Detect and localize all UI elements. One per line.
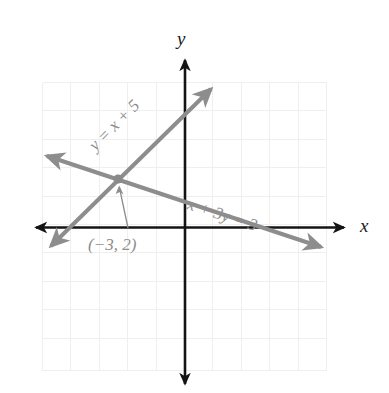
annotation-leader-arrowhead [116, 186, 124, 195]
annotation-leader-line [120, 188, 129, 228]
intersection-point-label: (−3, 2) [88, 235, 136, 255]
y-axis-label: y [177, 28, 185, 50]
intersection-point-marker [113, 174, 122, 183]
graph-figure: y = x + 5 x + 3y = 3 (−3, 2) y x [0, 0, 389, 393]
x-axis-label: x [360, 215, 368, 237]
